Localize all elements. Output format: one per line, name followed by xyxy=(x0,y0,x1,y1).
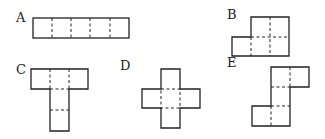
nets-figure: A B C D E xyxy=(0,0,325,139)
net-d-outline xyxy=(142,69,200,128)
net-e: E xyxy=(227,55,309,126)
label-a: A xyxy=(15,10,26,25)
label-b: B xyxy=(227,7,237,22)
fold-lines-center xyxy=(161,89,180,108)
net-e-outline xyxy=(252,67,309,126)
net-d: D xyxy=(120,58,200,128)
net-c: C xyxy=(16,62,88,131)
label-e: E xyxy=(227,55,237,70)
label-d: D xyxy=(120,58,130,73)
net-c-outline xyxy=(31,69,88,131)
net-a: A xyxy=(15,10,129,38)
net-b: B xyxy=(227,7,289,56)
net-a-outline xyxy=(33,18,129,38)
label-c: C xyxy=(16,62,26,77)
